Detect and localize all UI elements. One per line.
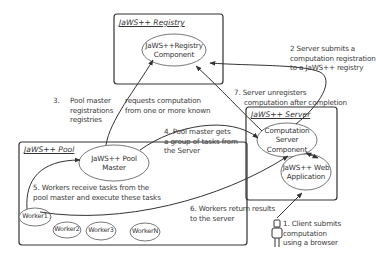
arrow-client-webapp bbox=[277, 193, 302, 218]
web-application: JaWS++ Web Application bbox=[281, 154, 331, 190]
pool-title: JaWS++ Pool bbox=[24, 145, 74, 154]
server-title: JaWS++ Server bbox=[251, 110, 310, 119]
step-4-label: 4. Pool master gets a group of tasks fro… bbox=[164, 127, 238, 156]
step-3-number: 3. bbox=[53, 96, 60, 106]
worker-3: Worker3 bbox=[86, 222, 116, 240]
pool-master: JaWS++ Pool Master bbox=[79, 145, 149, 181]
step-6-label: 6. Workers return results to the server bbox=[190, 204, 275, 223]
step-5-label: 5. Workers receive tasks from the pool m… bbox=[33, 183, 161, 202]
person-icon bbox=[272, 220, 282, 247]
step-7-label: 7. Server unregisters computation after … bbox=[234, 88, 347, 107]
worker-2: Worker2 bbox=[53, 222, 81, 238]
worker-1: Worker1 bbox=[19, 208, 51, 226]
worker-n: WorkerN bbox=[130, 223, 160, 241]
registry-title: JaWS++ Registry bbox=[119, 18, 185, 27]
registry-component: JaWS++Registry Component bbox=[142, 34, 206, 66]
step-3-label: Pool master registrations registries bbox=[70, 96, 113, 125]
step-3b-label: requests computation from one or more kn… bbox=[125, 96, 210, 115]
step-2-label: 2 Server submits a computation registrat… bbox=[290, 44, 376, 73]
computation-server-component: Computation Server Component bbox=[257, 123, 317, 157]
step-1-label: 1. Client submits computation using a br… bbox=[283, 219, 341, 248]
